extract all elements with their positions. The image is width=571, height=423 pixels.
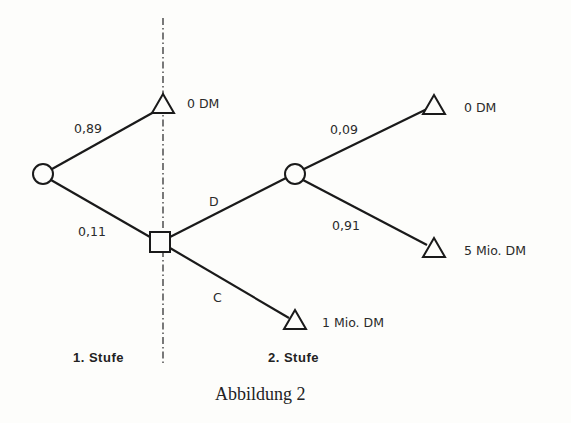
leaf-c-triangle — [284, 310, 306, 329]
edge-decision-d — [170, 178, 286, 237]
stage-label-2: 2. Stufe — [268, 350, 319, 365]
decision-node — [150, 232, 170, 252]
edge-label-chance2-bottom: 0,91 — [332, 218, 360, 233]
figure-caption: Abbildung 2 — [215, 384, 306, 404]
leaf-top-triangle — [152, 94, 174, 113]
leaf-top-label: 0 DM — [187, 96, 219, 111]
edge-label-d: D — [209, 194, 219, 209]
leaf-d1-triangle — [423, 95, 445, 114]
leaf-c-label: 1 Mio. DM — [322, 315, 384, 330]
root-chance-node — [33, 164, 53, 184]
chance-node-2 — [285, 164, 305, 184]
stage-label-1: 1. Stufe — [73, 350, 124, 365]
decision-tree-diagram: 0 DM 0 DM 5 Mio. DM 1 Mio. DM 0,89 0,11 … — [0, 0, 571, 423]
edge-label-chance2-top: 0,09 — [330, 122, 358, 137]
edge-label-c: C — [213, 290, 222, 305]
edge-label-root-top: 0,89 — [74, 121, 102, 136]
edge-chance2-top — [304, 109, 427, 169]
edge-decision-c — [170, 248, 289, 318]
leaf-d1-label: 0 DM — [464, 100, 496, 115]
edge-chance2-bottom — [303, 180, 427, 245]
edge-root-top — [52, 112, 154, 169]
leaf-d2-label: 5 Mio. DM — [464, 243, 526, 258]
leaf-d2-triangle — [423, 238, 445, 257]
edge-label-root-decision: 0,11 — [78, 224, 106, 239]
